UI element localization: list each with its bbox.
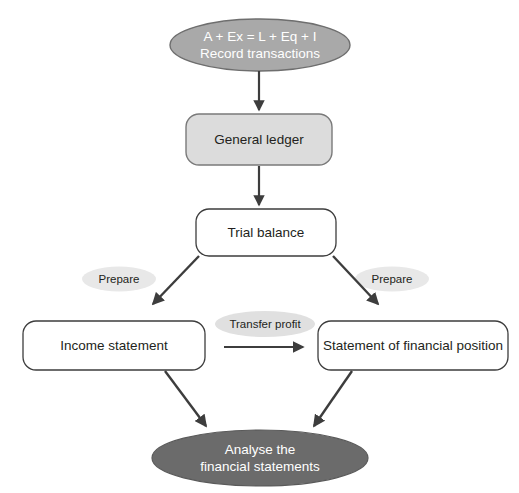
node-statement-of-financial-position-shape [318, 321, 508, 370]
edge-label-prepare-right-shape [355, 267, 429, 292]
edge-label-transfer-profit-shape [215, 311, 315, 337]
edge-income-to-analyse [165, 371, 206, 426]
edge-trial-to-income [153, 256, 199, 304]
node-analyse-shape [152, 430, 368, 486]
node-record-transactions-shape [170, 19, 350, 71]
node-income-statement-shape [23, 321, 205, 370]
edge-sofp-to-analyse [314, 371, 352, 426]
edge-label-prepare-left-shape [82, 267, 156, 292]
node-trial-balance-shape [196, 209, 336, 256]
diagram-canvas: A + Ex = L + Eq + I Record transactions … [0, 0, 519, 493]
node-general-ledger-shape [186, 114, 332, 165]
flowchart-graphic [0, 0, 519, 493]
